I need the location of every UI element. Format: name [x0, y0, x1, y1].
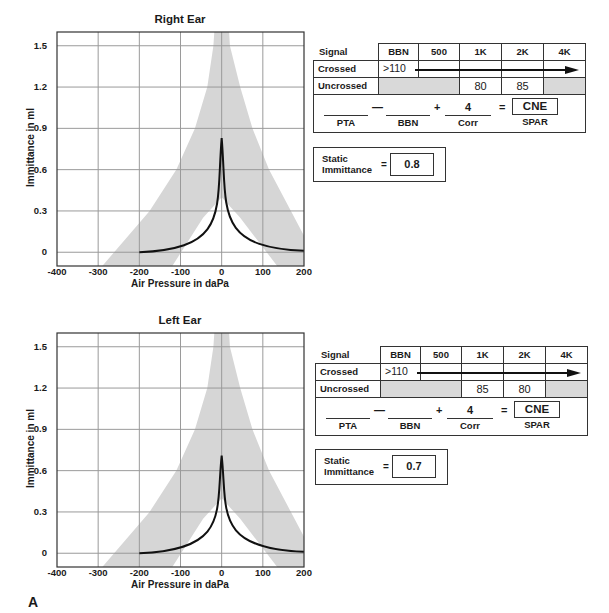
static-label-line2: Immittance [322, 164, 372, 175]
chart-title: Left Ear [56, 314, 304, 326]
pta-blank [324, 115, 368, 116]
crossed-value: >110 [385, 365, 408, 377]
y-tick-label: 0 [20, 547, 47, 558]
x-tick-label: -300 [78, 266, 118, 277]
corr-value: 4 [447, 404, 493, 416]
right-ear-panel: Right Ear Immittance in ml Air Pressure … [0, 0, 609, 300]
x-tick-label: -200 [119, 266, 159, 277]
arrow-line [415, 69, 567, 71]
x-tick-label: 200 [284, 266, 324, 277]
static-label-line2: Immittance [324, 466, 374, 477]
equals-sign: = [501, 404, 507, 416]
equals-sign: = [499, 101, 505, 113]
static-equals: = [383, 461, 389, 472]
signal-header-label: Signal to LE [321, 346, 350, 364]
col-header-2k: 2K [501, 43, 544, 61]
static-label-line1: Static [322, 153, 372, 164]
x-tick-label: 100 [243, 567, 283, 578]
uncrossed-2k: 80 [503, 380, 546, 398]
uncrossed-1k: 85 [461, 380, 504, 398]
crossed-row-label: Crossed [315, 363, 381, 381]
x-tick-label: 0 [202, 567, 242, 578]
y-tick-label: 0.9 [20, 122, 47, 133]
x-tick-label: 100 [243, 266, 283, 277]
x-tick-label: -300 [78, 567, 118, 578]
uncrossed-bbn-500 [378, 77, 460, 95]
y-tick-label: 0.9 [20, 423, 47, 434]
y-axis-title: Immittance in ml [25, 88, 36, 208]
signal-header-label: Signal to RE [319, 43, 348, 61]
arrow-head-icon [567, 369, 581, 377]
col-header-4k: 4K [545, 346, 588, 364]
col-header-1k: 1K [461, 346, 504, 364]
plus-sign: + [434, 101, 440, 113]
arrow-line [417, 372, 569, 374]
y-tick-label: 0.3 [20, 506, 47, 517]
x-axis-title: Air Pressure in daPa [56, 278, 304, 289]
corr-label: Corr [445, 117, 491, 128]
arrow-head-icon [565, 66, 579, 74]
chart-title: Right Ear [56, 13, 304, 25]
bbn-label: BBN [388, 420, 432, 431]
spar-label: SPAR [514, 419, 560, 430]
corr-label: Corr [447, 420, 493, 431]
col-header-500: 500 [418, 43, 460, 61]
spar-formula: PTA — BBN + 4 Corr = CNE SPAR [313, 94, 586, 133]
x-tick-label: 0 [202, 266, 242, 277]
uncrossed-row-label: Uncrossed [315, 380, 381, 398]
y-axis-title: Immittance in ml [25, 389, 36, 509]
static-value: 0.7 [392, 455, 436, 478]
x-tick-label: 200 [284, 567, 324, 578]
col-header-1k: 1K [459, 43, 502, 61]
crossed-row-label: Crossed [313, 60, 379, 78]
y-tick-label: 1.5 [20, 40, 47, 51]
static-label: Static Immittance [324, 455, 374, 477]
minus-sign: — [374, 404, 385, 416]
bbn-blank [386, 115, 430, 116]
y-tick-label: 0.6 [20, 164, 47, 175]
static-immittance: Static Immittance = 0.7 [315, 449, 448, 485]
pta-label: PTA [324, 117, 368, 128]
uncrossed-4k [545, 380, 588, 398]
spar-label: SPAR [512, 116, 558, 127]
static-label: Static Immittance [322, 153, 372, 175]
bbn-blank [388, 418, 432, 419]
col-header-bbn: BBN [378, 43, 419, 61]
static-immittance: Static Immittance = 0.8 [313, 147, 446, 182]
uncrossed-1k: 80 [459, 77, 502, 95]
pta-label: PTA [326, 420, 370, 431]
spar-value: CNE [514, 401, 560, 418]
y-tick-label: 0.6 [20, 465, 47, 476]
x-tick-label: -400 [37, 266, 77, 277]
y-tick-label: 1.2 [20, 382, 47, 393]
corr-blank [447, 418, 493, 419]
col-header-2k: 2K [503, 346, 546, 364]
static-equals: = [381, 159, 387, 170]
normal-range-band [102, 32, 304, 266]
plus-sign: + [436, 404, 442, 416]
y-tick-label: 0.3 [20, 205, 47, 216]
corr-value: 4 [445, 101, 491, 113]
x-tick-label: -100 [161, 567, 201, 578]
y-tick-label: 1.2 [20, 81, 47, 92]
x-tick-label: -400 [37, 567, 77, 578]
normal-range-band [102, 333, 304, 567]
minus-sign: — [372, 101, 383, 113]
uncrossed-4k [543, 77, 586, 95]
col-header-bbn: BBN [380, 346, 421, 364]
corr-blank [445, 115, 491, 116]
static-value: 0.8 [390, 153, 434, 176]
crossed-value: >110 [383, 62, 406, 74]
y-tick-label: 1.5 [20, 341, 47, 352]
x-tick-label: -200 [119, 567, 159, 578]
y-tick-label: 0 [20, 246, 47, 257]
uncrossed-row-label: Uncrossed [313, 77, 379, 95]
col-header-500: 500 [420, 346, 462, 364]
col-header-4k: 4K [543, 43, 586, 61]
spar-formula: PTA — BBN + 4 Corr = CNE SPAR [315, 397, 588, 436]
x-tick-label: -100 [161, 266, 201, 277]
x-axis-title: Air Pressure in daPa [56, 579, 304, 590]
figure-label: A [28, 594, 38, 610]
pta-blank [326, 418, 370, 419]
uncrossed-2k: 85 [501, 77, 544, 95]
